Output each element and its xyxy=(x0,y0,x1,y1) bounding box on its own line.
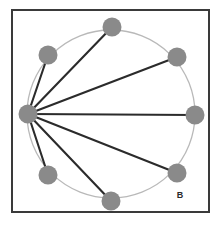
graph-node xyxy=(39,166,58,185)
graph-node xyxy=(103,18,122,37)
graph-hub-node xyxy=(19,105,38,124)
graph-node xyxy=(168,164,187,183)
graph-node xyxy=(186,106,205,125)
graph-node xyxy=(102,192,121,211)
graph-diagram-svg: B xyxy=(0,0,222,231)
figure-panel: B xyxy=(0,0,222,231)
graph-edge xyxy=(28,114,195,115)
graph-node xyxy=(168,48,187,67)
graph-node xyxy=(39,46,58,65)
panel-label: B xyxy=(177,190,184,200)
